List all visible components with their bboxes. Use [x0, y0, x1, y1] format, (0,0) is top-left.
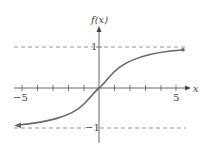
x-tick-label-min: −5: [13, 92, 28, 103]
curve-f: [19, 50, 182, 125]
curve-left-arrow-icon: [14, 123, 21, 129]
y-axis-label: f(x): [90, 14, 108, 25]
x-axis-label: x: [193, 83, 199, 94]
curve-right-endpoint-dot: [181, 48, 185, 52]
x-tick-label-max: 5: [173, 92, 179, 103]
y-axis-arrow-icon: [97, 26, 102, 32]
x-axis-arrow-icon: [185, 86, 191, 91]
y-tick-label-pos: 1: [91, 41, 97, 52]
chart: f(x) x −5 5 1 −1: [0, 0, 205, 146]
y-tick-label-neg: −1: [85, 122, 100, 133]
